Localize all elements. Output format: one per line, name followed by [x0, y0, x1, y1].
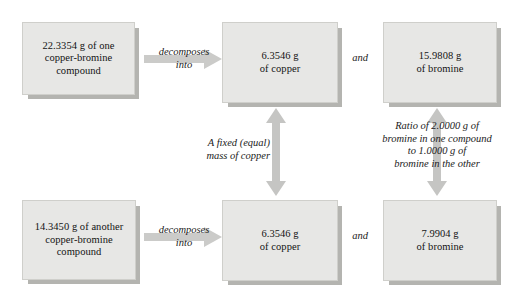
box-compound-one-text: 22.3354 g of one copper-bromine compound — [39, 40, 119, 77]
label-decomposes-into-top: decomposes into — [152, 46, 216, 71]
box-copper-top-text: 6.3546 g of copper — [256, 50, 304, 75]
label-and-bottom: and — [341, 230, 379, 243]
box-bromine-bottom: 7.9904 g of bromine — [383, 200, 497, 281]
box-bromine-top: 15.9808 g of bromine — [383, 22, 497, 103]
box-compound-one: 22.3354 g of one copper-bromine compound — [22, 22, 135, 95]
box-copper-bottom-text: 6.3546 g of copper — [256, 228, 304, 253]
label-decomposes-into-bottom: decomposes into — [152, 224, 216, 249]
box-bromine-top-text: 15.9808 g of bromine — [413, 50, 468, 75]
box-bromine-bottom-text: 7.9904 g of bromine — [413, 228, 468, 253]
box-copper-bottom: 6.3546 g of copper — [222, 200, 338, 281]
box-compound-two: 14.3450 g of another copper-bromine comp… — [22, 200, 136, 280]
label-bromine-ratio: Ratio of 2.0000 g of bromine in one comp… — [366, 120, 508, 170]
box-compound-two-text: 14.3450 g of another copper-bromine comp… — [31, 221, 127, 258]
label-and-top: and — [341, 52, 379, 65]
box-copper-top: 6.3546 g of copper — [222, 22, 338, 103]
label-fixed-mass-of-copper: A fixed (equal) mass of copper — [188, 137, 270, 162]
diagram-canvas: 22.3354 g of one copper-bromine compound… — [0, 0, 519, 303]
